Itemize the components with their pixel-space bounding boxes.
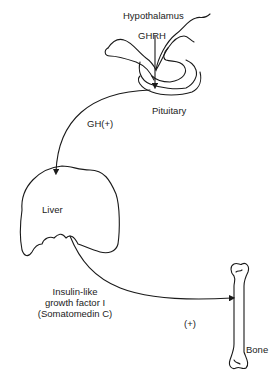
gh-arrow [56, 90, 150, 172]
igf1-label-line2: growth factor I [30, 297, 120, 308]
pituitary-label: Pituitary [152, 105, 186, 116]
gh-label: GH(+) [87, 118, 113, 129]
diagram-drawing [0, 0, 272, 379]
gh-axis-diagram: Hypothalamus GHRH Pituitary GH(+) Liver … [0, 0, 272, 379]
igf1-label: Insulin-like growth factor I (Somatomedi… [30, 286, 120, 319]
igf1-effect-label: (+) [184, 318, 196, 329]
bone-label: Bone [246, 344, 268, 355]
ghrh-label: GHRH [138, 30, 166, 41]
igf1-label-line1: Insulin-like [30, 286, 120, 297]
liver-shape [21, 166, 120, 256]
liver-label: Liver [42, 204, 63, 215]
pituitary-gland-shape [105, 14, 210, 95]
hypothalamus-label: Hypothalamus [123, 10, 184, 21]
igf1-label-line3: (Somatomedin C) [30, 308, 120, 319]
